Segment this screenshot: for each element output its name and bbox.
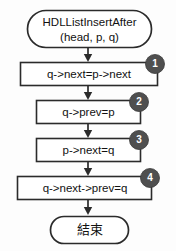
process-step-2-label: q->prev=p xyxy=(62,106,114,118)
end-terminal-label: 結束 xyxy=(77,222,103,237)
start-terminal[interactable]: HDLListInsertAfter (head, p, q) xyxy=(28,11,152,48)
step-badge-4-label: 4 xyxy=(147,172,153,183)
process-step-2[interactable]: q->prev=p xyxy=(37,101,141,124)
connector-step-4-to-end xyxy=(84,200,92,216)
process-step-1[interactable]: q->next=p->next xyxy=(21,63,158,86)
start-terminal-line2: (head, p, q) xyxy=(60,31,119,43)
step-badge-3: 3 xyxy=(130,131,149,150)
start-terminal-line1: HDLListInsertAfter xyxy=(43,16,137,28)
flowchart-canvas: HDLListInsertAfter (head, p, q) q->next=… xyxy=(0,0,176,251)
arrow-head-icon xyxy=(84,168,92,176)
connector-step-1-to-step-2 xyxy=(84,86,92,101)
process-step-3-label: p->next=q xyxy=(63,144,115,156)
process-step-4[interactable]: q->next->prev=q xyxy=(18,177,152,200)
flowchart-svg: HDLListInsertAfter (head, p, q) q->next=… xyxy=(0,0,176,251)
process-step-3[interactable]: p->next=q xyxy=(37,139,141,162)
process-step-1-label: q->next=p->next xyxy=(47,68,132,80)
step-badge-4: 4 xyxy=(141,169,160,188)
process-step-4-label: q->next->prev=q xyxy=(43,182,128,194)
step-badge-1-label: 1 xyxy=(152,58,158,69)
step-badge-1: 1 xyxy=(146,55,165,74)
connector-step-2-to-step-3 xyxy=(84,124,92,139)
arrow-head-icon xyxy=(84,92,92,100)
arrow-head-icon xyxy=(84,130,92,138)
end-terminal[interactable]: 結束 xyxy=(51,217,129,244)
step-badge-3-label: 3 xyxy=(136,134,142,145)
arrow-head-icon xyxy=(84,54,92,62)
step-badge-2: 2 xyxy=(130,93,149,112)
connector-start-to-step-1 xyxy=(84,48,92,63)
arrow-head-icon xyxy=(84,207,92,215)
step-badge-2-label: 2 xyxy=(136,96,142,107)
connector-step-3-to-step-4 xyxy=(84,162,92,177)
